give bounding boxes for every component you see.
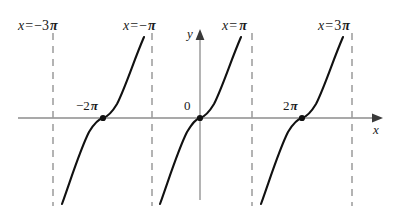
point-neg-2pi (100, 115, 106, 121)
asymptote-label-neg-3pi: x=−3π (18, 19, 58, 33)
x-axis-label: x (373, 123, 379, 136)
zero-label-neg-2pi: −2π (76, 99, 98, 112)
asymptote-label-equals: = (324, 18, 334, 33)
asymptote-label-pi: π (147, 18, 156, 33)
zero-label-coefficient: 0 (184, 98, 191, 113)
asymptote-label-sign: − (34, 18, 42, 33)
y-axis-arrow (196, 29, 205, 40)
asymptote-label-pi: π (341, 18, 350, 33)
point-zero (197, 115, 203, 121)
y-axis-label: y (187, 27, 193, 40)
asymptote-label-coefficient: 3 (42, 18, 49, 33)
asymptote-label-pi: π (49, 18, 58, 33)
zero-label-pi (191, 98, 192, 113)
y-axis (196, 29, 205, 200)
zero-label-coefficient: 2 (83, 98, 90, 113)
zero-label-pi: π (90, 98, 98, 113)
zero-label-pi: π (290, 98, 298, 113)
asymptote-label-pi: π (238, 18, 247, 33)
asymptote-label-neg-pi: x=−π (123, 19, 156, 33)
zero-label-origin: 0 (184, 99, 192, 112)
asymptote-label-3pi: x=3π (318, 19, 350, 33)
tangent-graph-figure: x=−3π x=−π x=π x=3π −2π 0 2π y x (0, 0, 393, 210)
zero-label-coefficient: 2 (283, 98, 290, 113)
point-2pi (299, 115, 305, 121)
asymptote-label-equals: = (24, 18, 34, 33)
zero-label-2pi: 2π (283, 99, 298, 112)
asymptote-label-sign: − (139, 18, 147, 33)
asymptote-label-pi: x=π (222, 19, 247, 33)
asymptote-label-equals: = (228, 18, 238, 33)
asymptote-label-equals: = (129, 18, 139, 33)
